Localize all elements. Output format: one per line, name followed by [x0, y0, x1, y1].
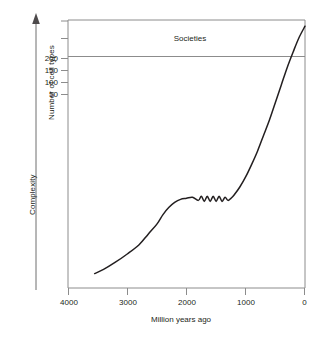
x-tick-label-0: 0 — [295, 298, 314, 307]
y-axis-title: Number of cell types — [47, 45, 56, 120]
societies-band-label: Societies — [152, 34, 228, 43]
complexity-axis-label: Complexity — [28, 174, 37, 215]
x-tick-label-3000: 3000 — [112, 298, 144, 307]
complexity-curve — [95, 26, 305, 273]
x-tick-label-4000: 4000 — [53, 298, 85, 307]
x-tick-label-2000: 2000 — [171, 298, 203, 307]
y-axis-ticks — [61, 21, 68, 95]
x-tick-label-1000: 1000 — [230, 298, 262, 307]
plot-frame — [68, 20, 305, 288]
x-axis-title: Million years ago — [151, 315, 211, 324]
complexity-chart-figure: 200 150 100 50 4000 3000 2000 1000 0 Mil… — [0, 0, 323, 339]
x-axis-ticks — [69, 288, 305, 295]
